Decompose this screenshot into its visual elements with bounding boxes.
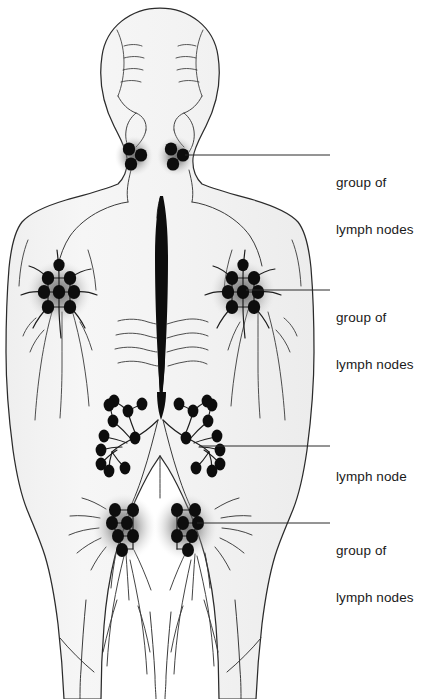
lymph-node	[212, 430, 223, 443]
lymph-node	[237, 259, 248, 271]
lymph-node	[53, 259, 64, 271]
callout-label-lymph-node: lymph node	[336, 438, 407, 516]
lymph-node	[137, 398, 148, 411]
halo-cervical-right	[156, 135, 196, 177]
callout-label-cervical-lymph-nodes: group of lymph nodes	[336, 144, 414, 268]
lymph-node	[165, 142, 177, 155]
lymph-node	[222, 285, 234, 299]
callout-label-inguinal-lymph-nodes: group of lymph nodes	[336, 512, 414, 636]
callout-line-2: lymph nodes	[336, 590, 414, 606]
lymph-node	[108, 415, 119, 428]
lymph-node	[182, 543, 194, 557]
lymph-node	[248, 300, 260, 314]
lymph-node	[177, 516, 189, 530]
lymph-node	[237, 285, 249, 299]
callout-line-2: lymph nodes	[336, 357, 414, 373]
lymph-node	[64, 300, 76, 314]
lymph-node	[125, 157, 137, 170]
callout-label-axillary-lymph-nodes: group of lymph nodes	[336, 279, 414, 403]
lymph-node	[123, 405, 134, 418]
lymphatic-system-figure: group of lymph nodes group of lymph node…	[0, 0, 429, 699]
lymph-node	[96, 444, 107, 457]
lymph-node	[38, 285, 50, 299]
lymph-node	[171, 529, 183, 543]
lymph-node	[167, 157, 179, 170]
lymph-node	[226, 271, 238, 285]
lymph-node	[64, 271, 76, 285]
lymph-node	[135, 148, 147, 161]
callout-line-1: group of	[336, 543, 414, 559]
lymph-node	[226, 300, 238, 314]
lymph-node	[203, 415, 214, 428]
lymph-node	[42, 271, 54, 285]
lymph-node	[207, 399, 218, 412]
lymph-node	[116, 543, 128, 557]
lymph-node	[181, 432, 192, 445]
lymph-node	[252, 285, 264, 299]
lymph-node	[42, 300, 54, 314]
lymph-node	[120, 462, 131, 475]
lymph-node	[123, 142, 135, 155]
lymph-node	[186, 529, 198, 543]
lymph-node	[189, 503, 201, 517]
lymph-node	[130, 432, 141, 445]
lymph-node	[188, 405, 199, 418]
lymph-node	[121, 516, 133, 530]
lymph-node	[104, 399, 115, 412]
callout-line-1: group of	[336, 175, 414, 191]
halo-cervical-left	[114, 135, 154, 177]
lymph-node	[248, 271, 260, 285]
lymph-node	[106, 516, 118, 530]
lymph-node	[207, 465, 218, 478]
lymph-node	[171, 503, 183, 517]
lymph-node	[53, 285, 65, 299]
lymph-node	[191, 462, 202, 475]
lymph-node	[99, 430, 110, 443]
lymph-node	[127, 503, 139, 517]
lymph-node	[174, 398, 185, 411]
lymph-node	[127, 529, 139, 543]
lymph-node	[68, 285, 80, 299]
lymph-node	[109, 503, 121, 517]
callout-line-2: lymph nodes	[336, 222, 414, 238]
callout-line-1: lymph node	[336, 469, 407, 485]
callout-line-1: group of	[336, 310, 414, 326]
lymph-node	[112, 529, 124, 543]
lymph-node	[104, 465, 115, 478]
